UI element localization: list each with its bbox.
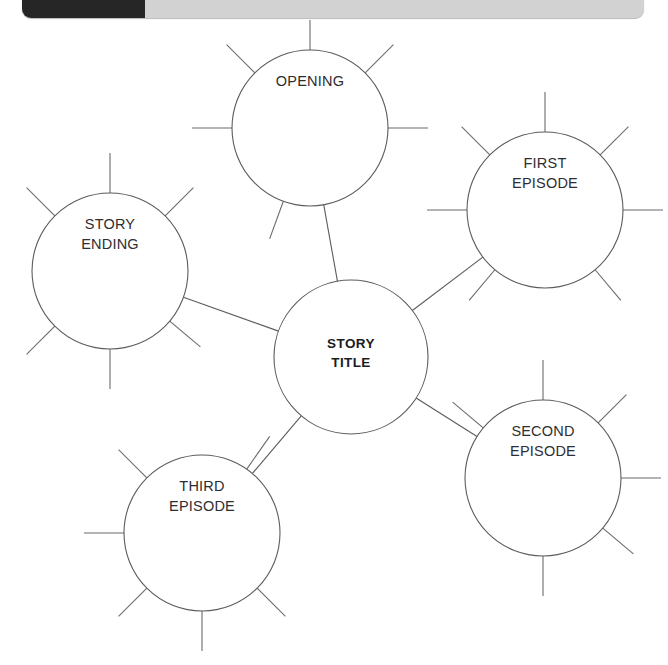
spoke-first-episode-2 xyxy=(600,127,628,155)
node-label-line: EPISODE xyxy=(169,498,235,514)
spoke-third-episode-2 xyxy=(119,588,147,616)
spoke-third-episode-4 xyxy=(257,588,285,616)
spoke-story-ending-5 xyxy=(170,321,201,347)
link-story-title-to-story-ending xyxy=(183,297,278,331)
link-story-title-to-first-episode xyxy=(412,257,482,310)
diagram-canvas: STORYTITLEOPENINGFIRSTEPISODESTORYENDING… xyxy=(0,20,668,665)
link-story-title-to-second-episode xyxy=(416,398,477,436)
node-label-line: SECOND xyxy=(511,423,574,439)
spoke-third-episode-5 xyxy=(247,436,270,469)
node-second-episode[interactable]: SECONDEPISODE xyxy=(465,400,621,556)
spoke-first-episode-1 xyxy=(462,127,490,155)
toolbar-dark-panel[interactable] xyxy=(22,0,145,18)
spoke-first-episode-6 xyxy=(595,270,621,301)
node-label-opening: OPENING xyxy=(276,73,344,89)
node-circles-layer: STORYTITLEOPENINGFIRSTEPISODESTORYENDING… xyxy=(32,50,623,611)
node-label-line: FIRST xyxy=(524,155,567,171)
spoke-story-ending-1 xyxy=(27,188,55,216)
story-mind-map-diagram: STORYTITLEOPENINGFIRSTEPISODESTORYENDING… xyxy=(0,20,668,665)
spoke-third-episode-0 xyxy=(119,450,147,478)
node-label-line: STORY xyxy=(327,336,375,351)
node-label-line: THIRD xyxy=(179,478,224,494)
spoke-story-ending-2 xyxy=(165,188,193,216)
node-label-line: TITLE xyxy=(331,355,371,370)
node-label-line: EPISODE xyxy=(512,175,578,191)
node-label-line: ENDING xyxy=(81,236,139,252)
node-third-episode[interactable]: THIRDEPISODE xyxy=(124,455,280,611)
spoke-story-ending-3 xyxy=(27,326,55,354)
node-label-line: OPENING xyxy=(276,73,344,89)
spoke-opening-2 xyxy=(365,45,393,73)
node-opening[interactable]: OPENING xyxy=(232,50,388,206)
spoke-second-episode-5 xyxy=(603,528,634,554)
toolbar-shell xyxy=(22,0,644,18)
node-first-episode[interactable]: FIRSTEPISODE xyxy=(467,132,623,288)
application-toolbar xyxy=(0,0,668,20)
link-story-title-to-opening xyxy=(324,205,338,281)
node-story-title[interactable]: STORYTITLE xyxy=(274,280,428,434)
node-label-line: EPISODE xyxy=(510,443,576,459)
node-story-ending[interactable]: STORYENDING xyxy=(32,193,188,349)
link-story-title-to-third-episode xyxy=(252,416,301,474)
node-label-line: STORY xyxy=(85,216,136,232)
spoke-opening-1 xyxy=(227,45,255,73)
spoke-opening-5 xyxy=(270,201,284,239)
spoke-first-episode-5 xyxy=(469,270,495,301)
spoke-second-episode-2 xyxy=(598,395,626,423)
